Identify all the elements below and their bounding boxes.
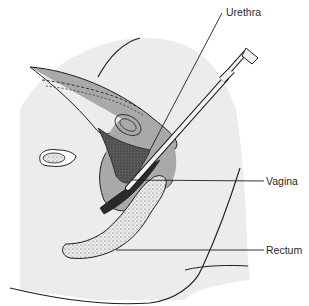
label-vagina: Vagina (266, 176, 298, 187)
anatomical-diagram: Urethra Vagina Rectum (0, 0, 309, 306)
pelvis-illustration (0, 0, 309, 306)
label-urethra: Urethra (226, 7, 261, 18)
label-rectum: Rectum (266, 245, 302, 256)
